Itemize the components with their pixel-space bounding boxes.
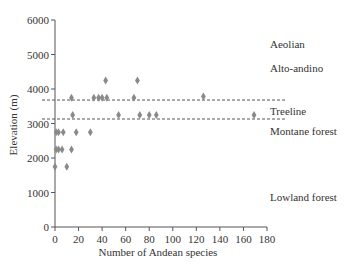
data-point-diamond — [61, 128, 66, 136]
x-tick-label: 0 — [52, 233, 58, 245]
y-axis-label: Elevation (m) — [7, 94, 20, 155]
data-point-diamond — [201, 93, 206, 101]
x-tick-label: 80 — [144, 233, 156, 245]
data-point-diamond — [88, 128, 93, 136]
y-tick-label: 3000 — [27, 118, 50, 130]
y-tick-label: 0 — [44, 221, 50, 233]
reference-lines — [42, 100, 287, 119]
data-point-diamond — [135, 76, 140, 84]
data-point-diamond — [252, 111, 257, 119]
zone-annotations: AeolianAlto-andinoTreelineMontane forest… — [270, 38, 337, 203]
zone-label: Treeline — [270, 105, 306, 117]
data-point-diamond — [53, 163, 58, 171]
data-point-diamond — [60, 145, 65, 153]
data-point-diamond — [69, 145, 74, 153]
zone-label: Lowland forest — [270, 191, 337, 203]
data-point-diamond — [137, 111, 142, 119]
x-tick-label: 160 — [235, 233, 252, 245]
zone-label: Aeolian — [270, 38, 305, 50]
y-tick-label: 6000 — [27, 14, 50, 26]
data-point-diamond — [154, 111, 159, 119]
data-point-diamond — [74, 128, 79, 136]
data-point-diamond — [116, 111, 121, 119]
x-tick-label: 120 — [188, 233, 205, 245]
y-tick-label: 5000 — [27, 49, 50, 61]
data-point-diamond — [103, 76, 108, 84]
x-tick-label: 140 — [212, 233, 229, 245]
y-tick-label: 4000 — [27, 83, 50, 95]
x-tick-label: 180 — [259, 233, 276, 245]
x-axis-label: Number of Andean species — [99, 246, 218, 258]
axes: 0100020003000400050006000020406080100120… — [27, 14, 276, 245]
zone-label: Montane forest — [270, 125, 337, 137]
x-tick-label: 40 — [97, 233, 109, 245]
data-point-diamond — [70, 111, 75, 119]
x-tick-label: 60 — [120, 233, 132, 245]
x-tick-label: 100 — [165, 233, 182, 245]
y-tick-label: 2000 — [27, 152, 50, 164]
x-tick-label: 20 — [73, 233, 85, 245]
scatter-chart: 0100020003000400050006000020406080100120… — [0, 0, 348, 270]
chart-canvas: 0100020003000400050006000020406080100120… — [0, 0, 348, 270]
data-point-diamond — [64, 163, 69, 171]
zone-label: Alto-andino — [270, 62, 324, 74]
y-tick-label: 1000 — [27, 187, 50, 199]
data-point-diamond — [147, 111, 152, 119]
data-points — [53, 76, 257, 170]
